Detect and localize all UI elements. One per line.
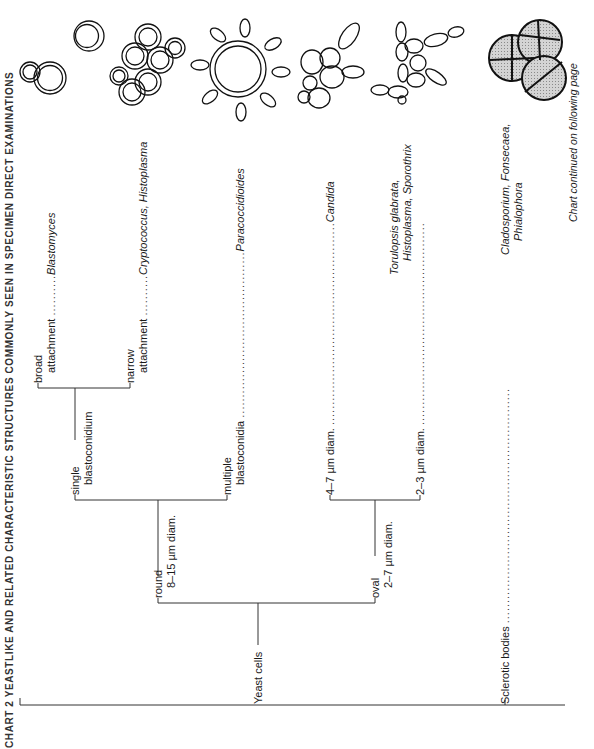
sclerotic-bodies-icon [489,20,566,100]
torulopsis-histoplasma-sporothrix-cells-icon [371,22,465,104]
cryptococcus-histoplasma-cells-icon [110,24,185,105]
cell-illustrations [0,0,594,749]
paracoccidioides-cell-icon [191,19,290,121]
candida-cells-icon [298,20,364,108]
blastomyces-cells-icon [20,21,104,94]
